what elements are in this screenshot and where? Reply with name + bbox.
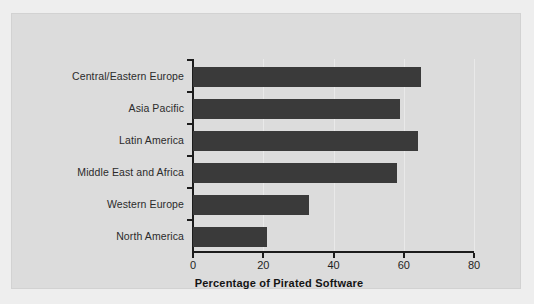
x-axis-tick [192, 253, 194, 258]
plot-area [193, 59, 474, 251]
x-axis-tick [333, 253, 335, 258]
x-axis-tick-label: 80 [468, 259, 480, 271]
bar-fill [193, 99, 400, 119]
bar [193, 131, 418, 151]
bar [193, 163, 397, 183]
category-label: North America [24, 230, 184, 242]
bar-fill [193, 195, 309, 215]
bar-fill [193, 163, 397, 183]
gridline [474, 59, 475, 251]
y-axis-tick [187, 59, 193, 61]
category-label: Western Europe [24, 198, 184, 210]
bar [193, 99, 400, 119]
bar-fill [193, 131, 418, 151]
x-axis-tick-label: 20 [257, 259, 269, 271]
bar-fill [193, 67, 421, 87]
x-axis-title: Percentage of Pirated Software [12, 277, 534, 289]
category-label: Asia Pacific [24, 102, 184, 114]
y-axis-tick [187, 155, 193, 157]
x-axis-tick-label: 0 [190, 259, 196, 271]
gridline [263, 59, 264, 251]
chart-screenshot: Central/Eastern EuropeAsia PacificLatin … [0, 0, 534, 304]
x-axis-tick [403, 253, 405, 258]
x-axis-tick-label: 60 [398, 259, 410, 271]
bar [193, 227, 267, 247]
y-axis-tick [187, 187, 193, 189]
category-label: Central/Eastern Europe [24, 70, 184, 82]
bar [193, 67, 421, 87]
y-axis-tick [187, 91, 193, 93]
gridline [334, 59, 335, 251]
x-axis-tick-label: 40 [327, 259, 339, 271]
y-axis-tick [187, 219, 193, 221]
x-axis-tick [473, 253, 475, 258]
category-label: Latin America [24, 134, 184, 146]
y-axis-tick [187, 123, 193, 125]
x-axis-tick [262, 253, 264, 258]
category-label: Middle East and Africa [24, 166, 184, 178]
bar-fill [193, 227, 267, 247]
bar [193, 195, 309, 215]
chart-panel: Central/Eastern EuropeAsia PacificLatin … [12, 14, 520, 288]
gridline [404, 59, 405, 251]
